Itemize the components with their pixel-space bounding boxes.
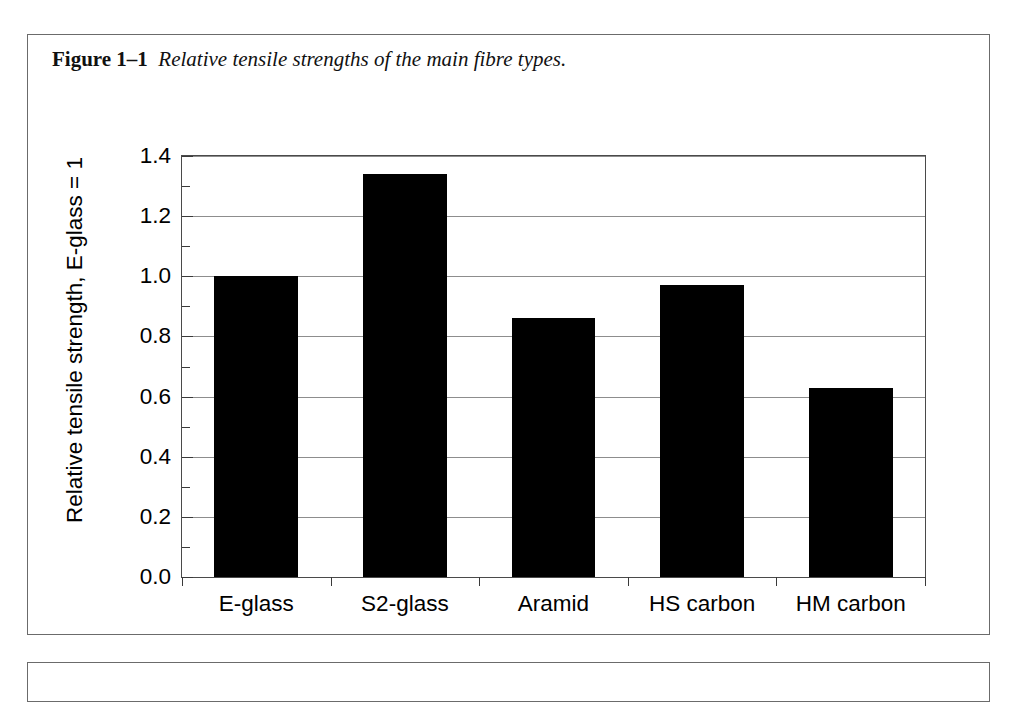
x-tick-label: S2-glass: [361, 591, 449, 617]
y-minor-tick: [182, 427, 190, 428]
x-tick-label: E-glass: [219, 591, 294, 617]
x-tick-mark: [182, 577, 183, 586]
y-tick-mark: [182, 457, 193, 458]
y-tick-mark: [182, 397, 193, 398]
x-tick-mark: [925, 577, 926, 586]
y-minor-tick: [182, 186, 190, 187]
x-tick-label: HS carbon: [649, 591, 755, 617]
gridline: [182, 156, 925, 157]
y-minor-tick: [182, 306, 190, 307]
bar: [512, 318, 596, 577]
y-minor-tick: [182, 487, 190, 488]
y-tick-label: 1.2: [140, 203, 171, 229]
x-tick-mark: [331, 577, 332, 586]
gridline: [182, 216, 925, 217]
y-tick-mark: [182, 577, 193, 578]
y-tick-mark: [182, 517, 193, 518]
y-tick-mark: [182, 336, 193, 337]
x-tick-mark: [479, 577, 480, 586]
figure-number: Figure 1–1: [52, 47, 148, 71]
y-tick-label: 0.4: [140, 444, 171, 470]
figure-panel: Figure 1–1 Relative tensile strengths of…: [27, 34, 990, 635]
figure-caption: Figure 1–1 Relative tensile strengths of…: [52, 47, 566, 72]
x-tick-label: Aramid: [518, 591, 589, 617]
y-tick-mark: [182, 276, 193, 277]
y-axis-label: Relative tensile strength, E-glass = 1: [62, 130, 88, 550]
x-tick-mark: [628, 577, 629, 586]
y-tick-label: 1.4: [140, 143, 171, 169]
x-tick-label: HM carbon: [796, 591, 906, 617]
y-tick-mark: [182, 216, 193, 217]
x-tick-mark: [776, 577, 777, 586]
y-tick-label: 0.0: [140, 564, 171, 590]
bar: [363, 174, 447, 577]
y-tick-label: 1.0: [140, 263, 171, 289]
y-minor-tick: [182, 367, 190, 368]
plot-area: 0.00.20.40.60.81.01.21.4E-glassS2-glassA…: [181, 155, 926, 578]
bar: [214, 276, 298, 577]
y-minor-tick: [182, 246, 190, 247]
y-tick-label: 0.8: [140, 323, 171, 349]
bar: [809, 388, 893, 577]
figure-caption-text: Relative tensile strengths of the main f…: [158, 47, 566, 71]
y-tick-label: 0.6: [140, 384, 171, 410]
next-panel: [27, 662, 990, 702]
y-minor-tick: [182, 547, 190, 548]
bar: [660, 285, 744, 577]
y-tick-mark: [182, 156, 193, 157]
y-tick-label: 0.2: [140, 504, 171, 530]
bar-chart: Relative tensile strength, E-glass = 1 0…: [28, 95, 991, 635]
